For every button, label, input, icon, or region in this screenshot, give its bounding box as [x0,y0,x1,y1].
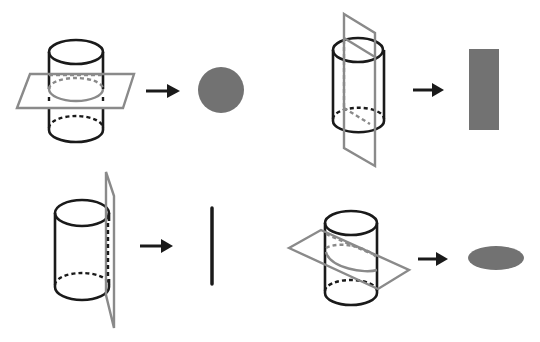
cylinder-top-ellipse [55,200,109,226]
section-bottom-hidden [344,108,370,124]
cylinder [49,40,103,142]
result-circle [198,67,244,113]
right-arrow-icon [140,239,173,253]
tangent-plane [106,172,114,328]
cylinder [325,211,377,305]
right-arrow-icon [418,252,448,266]
cylinder-bottom-back-hidden [55,273,109,285]
cylinder-cross-section-diagram [0,0,540,342]
result-rectangle [469,49,499,130]
panel-oblique-cut [289,211,524,305]
panel-tangent-cut [55,172,212,328]
cylinder-bottom-front [55,287,109,300]
right-arrow-icon [146,84,180,98]
result-ellipse [468,246,524,270]
cylinder-top-ellipse [49,40,103,64]
cylinder [55,200,109,300]
cylinder-top-ellipse [325,211,377,235]
panel-horizontal-cut [17,40,244,142]
section-back-hidden [49,78,103,89]
cylinder-bottom-back-hidden [49,116,103,128]
right-arrow-icon [413,83,444,97]
cylinder-bottom-front [333,121,384,132]
section-back-hidden [326,245,377,258]
panel-vertical-axial-cut [333,14,499,166]
section-front [49,89,103,101]
cylinder-bottom-front [325,293,377,305]
cylinder-bottom-front [49,130,103,142]
